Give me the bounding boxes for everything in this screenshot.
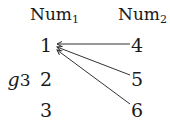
arrow-6-to-1 [57,50,130,104]
mapping-arrows [0,0,170,122]
arrow-5-to-1 [57,47,130,75]
